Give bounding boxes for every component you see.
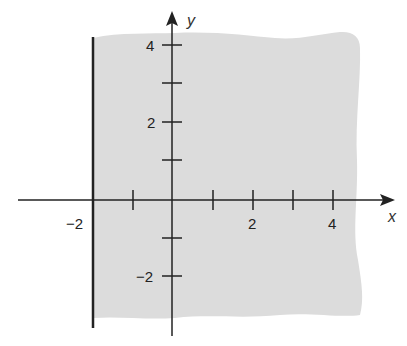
x-tick-label-neg2: −2 [66,215,83,232]
x-tick-label-2: 2 [248,215,256,232]
y-tick-label-2: 2 [147,114,155,131]
y-tick-label-4: 4 [146,37,154,54]
shaded-region [93,32,362,319]
x-axis-label: x [387,208,397,225]
x-tick-label-4: 4 [328,215,336,232]
y-tick-label-neg2: −2 [136,268,153,285]
y-axis-label: y [186,12,196,29]
coordinate-plane: −2 2 4 4 2 −2 x y [0,0,407,346]
